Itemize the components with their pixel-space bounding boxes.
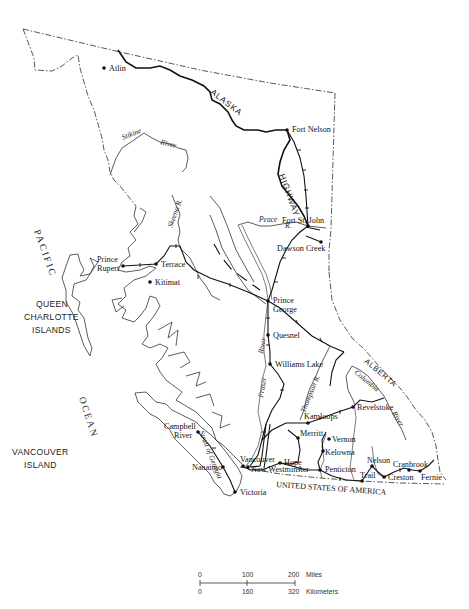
label-kamloops: Kamloops <box>304 412 338 421</box>
label-vancouver-island-1: VANCOUVER <box>12 447 69 457</box>
label-penticton: Penticton <box>325 465 356 474</box>
scale-km-0: 0 <box>198 588 202 595</box>
label-trail: Trail <box>360 471 376 480</box>
city-dot-icon <box>285 128 289 132</box>
labels: Atlin Fort Nelson Fort St. John Dawson C… <box>12 64 442 497</box>
label-prince-george-1: Prince <box>273 296 294 305</box>
label-fort-nelson: Fort Nelson <box>292 125 331 134</box>
city-dot-icon <box>102 66 106 70</box>
scale-km-320: 320 <box>288 588 300 595</box>
label-campbell-river-1: Campbell <box>164 422 197 431</box>
label-fernie: Fernie <box>421 473 442 482</box>
label-queen-3: ISLANDS <box>32 325 71 335</box>
city-dot-icon <box>233 490 237 494</box>
label-peace: Peace <box>258 215 278 224</box>
label-queen-2: CHARLOTTE <box>24 312 79 322</box>
scale-mile-100: 100 <box>242 571 254 578</box>
label-prince-george-2: George <box>273 305 297 314</box>
scale-miles-unit: Miles <box>306 571 322 578</box>
rivers <box>110 133 406 480</box>
label-fraser-river: River <box>256 337 268 356</box>
label-prince-rupert-1: Prince <box>97 255 118 264</box>
scale-km-160: 160 <box>242 588 254 595</box>
label-campbell-river-2: River <box>174 431 192 440</box>
label-queen-1: QUEEN <box>36 299 68 309</box>
label-skeena: Skeena R. <box>165 198 184 229</box>
scale-km-unit: Kilometers <box>306 588 339 595</box>
city-dot-icon <box>121 264 125 268</box>
city-dot-icon <box>266 299 270 303</box>
label-victoria: Victoria <box>240 488 267 497</box>
label-stikine: Stikine <box>120 126 143 142</box>
label-merritt: Merritt <box>300 429 324 438</box>
label-usa: UNITED STATES OF AMERICA <box>276 480 387 497</box>
label-ocean: OCEAN <box>77 396 100 440</box>
city-dot-icon <box>327 437 331 441</box>
city-dot-icon <box>246 465 250 469</box>
label-pacific: PACIFIC <box>32 228 58 278</box>
city-dot-icon <box>154 262 158 266</box>
city-dot-icon <box>382 475 386 479</box>
label-nelson: Nelson <box>367 456 390 465</box>
label-alaska: ALASKA <box>209 87 245 118</box>
label-highway: HIGHWAY <box>277 172 302 217</box>
label-williams-lake: Williams Lake <box>275 360 323 369</box>
label-creston: Creston <box>388 473 413 482</box>
label-hope: Hope <box>284 458 302 467</box>
label-fraser: Fraser <box>256 377 269 400</box>
label-prince-rupert-2: Rupert <box>97 264 120 273</box>
label-cranbrook: Cranbrook <box>393 460 429 469</box>
scale-bar: 0 100 200 Miles 0 160 320 Kilometers <box>198 571 339 595</box>
label-peace-r: R. <box>284 221 292 230</box>
label-thompson: Thompson R. <box>299 374 322 414</box>
label-revelstoke: Revelstoke <box>357 403 394 412</box>
city-dot-icon <box>266 333 270 337</box>
label-dawson-creek: Dawson Creek <box>277 244 326 253</box>
city-dot-icon <box>351 405 355 409</box>
label-kelowna: Kelowna <box>325 448 355 457</box>
label-stikine-river: River <box>159 137 178 150</box>
label-strait-of-georgia: Strait of Georgia <box>197 429 225 480</box>
scale-mile-200: 200 <box>288 571 300 578</box>
label-quesnel: Quesnel <box>273 331 301 340</box>
label-vancouver-island-2: ISLAND <box>24 460 57 470</box>
label-kitimat: Kitimat <box>155 278 181 287</box>
city-dot-icon <box>306 421 310 425</box>
bc-map: Atlin Fort Nelson Fort St. John Dawson C… <box>0 0 469 609</box>
label-vancouver: Vancouver <box>240 455 275 464</box>
city-dot-icon <box>241 464 245 468</box>
label-vernon: Vernon <box>332 435 356 444</box>
city-dot-icon <box>318 468 322 472</box>
city-dot-icon <box>268 362 272 366</box>
label-terrace: Terrace <box>161 260 186 269</box>
scale-mile-0: 0 <box>198 571 202 578</box>
label-atlin: Atlin <box>109 64 126 73</box>
city-dot-icon <box>148 280 152 284</box>
